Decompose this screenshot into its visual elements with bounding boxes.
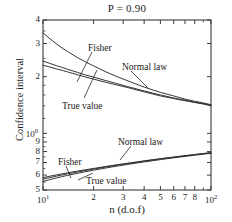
y-tick-label: 6 [18,169,40,179]
y-tick-label: 7 [18,156,40,166]
x-tick-label: 101 [30,193,56,205]
annotation-normal-law: Normal law [118,137,163,147]
annotation-fisher: Fisher [88,43,112,53]
y-tick-label: 9 [18,136,40,146]
x-tick-label: 2 [85,192,103,202]
annotation-true-value: True value [86,176,127,186]
annotation-true-value: True value [62,101,103,111]
x-tick-label: 3 [114,192,132,202]
y-tick-label: 8 [18,146,40,156]
annotation-fisher: Fisher [58,157,82,167]
annotation-normal-law: Normal law [122,62,167,72]
y-tick-label: 2 [18,71,40,81]
y-tick-label: 4 [18,14,40,24]
y-tick-label: 3 [18,38,40,48]
figure-container: P = 0.90 Confidence interval n (d.o.f) 4… [0,0,232,222]
x-tick-label: 102 [198,193,224,205]
